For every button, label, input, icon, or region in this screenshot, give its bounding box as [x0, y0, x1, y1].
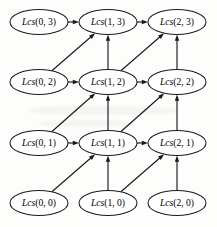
node-label-args: (0, 1)	[35, 137, 56, 149]
arrowhead-icon	[175, 156, 179, 162]
arrowhead-icon	[142, 141, 148, 145]
node-label: Lcs(2, 0)	[159, 197, 194, 209]
node-label: Lcs(1, 1)	[90, 137, 125, 149]
arrowhead-icon	[142, 80, 148, 84]
lcs-lattice-diagram: Lcs(0, 3)Lcs(1, 3)Lcs(2, 3)Lcs(0, 2)Lcs(…	[0, 0, 217, 227]
arrowhead-icon	[73, 20, 79, 24]
node-label-function: Lcs	[159, 197, 174, 208]
graph-node[interactable]: Lcs(2, 2)	[148, 70, 206, 95]
node-label: Lcs(0, 3)	[21, 16, 56, 28]
node-label: Lcs(0, 0)	[21, 197, 56, 209]
node-label: Lcs(1, 0)	[90, 197, 125, 209]
graph-node[interactable]: Lcs(1, 1)	[79, 131, 137, 156]
node-label-function: Lcs	[21, 16, 36, 27]
graph-node[interactable]: Lcs(2, 1)	[148, 131, 206, 156]
node-label-function: Lcs	[159, 76, 174, 87]
graph-node[interactable]: Lcs(1, 0)	[79, 191, 137, 216]
edge-diagonal	[121, 157, 160, 191]
node-label-function: Lcs	[21, 197, 36, 208]
graph-node[interactable]: Lcs(0, 1)	[10, 131, 68, 156]
edge-diagonal	[52, 157, 91, 191]
edge-diagonal	[52, 36, 91, 70]
graph-node[interactable]: Lcs(0, 0)	[10, 191, 68, 216]
node-label-args: (2, 2)	[173, 76, 194, 88]
graph-canvas: Lcs(0, 3)Lcs(1, 3)Lcs(2, 3)Lcs(0, 2)Lcs(…	[0, 0, 217, 227]
edge-diagonal	[121, 36, 160, 70]
graph-node[interactable]: Lcs(1, 3)	[79, 10, 137, 35]
graph-node[interactable]: Lcs(2, 3)	[148, 10, 206, 35]
arrowhead-icon	[142, 20, 148, 24]
node-label: Lcs(2, 1)	[159, 137, 194, 149]
node-label-function: Lcs	[90, 16, 105, 27]
edge-diagonal	[52, 97, 92, 132]
arrowhead-icon	[175, 95, 179, 101]
node-label-args: (1, 1)	[104, 137, 125, 149]
node-label-function: Lcs	[21, 76, 36, 87]
node-label: Lcs(2, 3)	[159, 16, 194, 28]
graph-node[interactable]: Lcs(0, 2)	[10, 70, 68, 95]
arrowhead-icon	[106, 156, 110, 162]
node-label-args: (2, 3)	[173, 16, 194, 28]
node-label-function: Lcs	[90, 137, 105, 148]
node-label-function: Lcs	[90, 76, 105, 87]
arrowhead-icon	[73, 80, 79, 84]
arrowhead-icon	[106, 35, 110, 41]
graph-node[interactable]: Lcs(0, 3)	[10, 10, 68, 35]
arrowhead-icon	[73, 141, 79, 145]
node-label-function: Lcs	[21, 137, 36, 148]
node-label-args: (0, 3)	[35, 16, 56, 28]
edges-group	[52, 20, 179, 192]
graph-node[interactable]: Lcs(2, 0)	[148, 191, 206, 216]
arrowhead-icon	[175, 35, 179, 41]
arrowhead-icon	[106, 95, 110, 101]
edge-diagonal	[121, 97, 161, 132]
node-label: Lcs(2, 2)	[159, 76, 194, 88]
node-label: Lcs(1, 2)	[90, 76, 125, 88]
node-label-function: Lcs	[90, 197, 105, 208]
graph-node[interactable]: Lcs(1, 2)	[79, 70, 137, 95]
node-label-args: (1, 3)	[104, 16, 125, 28]
node-label-args: (0, 2)	[35, 76, 56, 88]
node-label-args: (2, 0)	[173, 197, 194, 209]
node-label-args: (1, 2)	[104, 76, 125, 88]
node-label: Lcs(0, 1)	[21, 137, 56, 149]
node-label-args: (1, 0)	[104, 197, 125, 209]
node-label-args: (0, 0)	[35, 197, 56, 209]
node-label: Lcs(1, 3)	[90, 16, 125, 28]
node-label: Lcs(0, 2)	[21, 76, 56, 88]
node-label-args: (2, 1)	[173, 137, 194, 149]
node-label-function: Lcs	[159, 16, 174, 27]
node-label-function: Lcs	[159, 137, 174, 148]
